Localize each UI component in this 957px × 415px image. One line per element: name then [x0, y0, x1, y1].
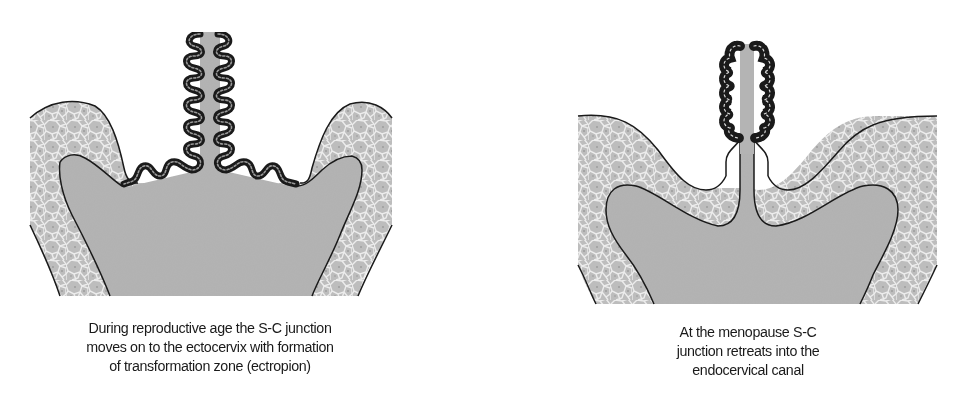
cervix-diagram-reproductive-age: [0, 0, 478, 300]
caption-line: During reproductive age the S-C junction: [17, 318, 403, 337]
panel-menopause: At the menopause S-C junction retreats i…: [478, 0, 957, 415]
caption-line: moves on to the ectocervix with formatio…: [17, 337, 403, 356]
columnar-epithelium-left: [724, 46, 740, 138]
cervix-diagram-menopause: [478, 0, 957, 310]
panel-reproductive-age: During reproductive age the S-C junction…: [0, 0, 478, 415]
columnar-epithelium-left: [124, 34, 202, 184]
caption-line: of transformation zone (ectropion): [17, 356, 403, 375]
caption-line: At the menopause S-C: [610, 322, 886, 341]
columnar-epithelium-right: [754, 46, 770, 138]
caption-menopause: At the menopause S-C junction retreats i…: [610, 322, 886, 379]
caption-line: endocervical canal: [610, 360, 886, 379]
caption-reproductive-age: During reproductive age the S-C junction…: [17, 318, 403, 375]
caption-line: junction retreats into the: [610, 341, 886, 360]
columnar-epithelium-right: [217, 34, 297, 184]
